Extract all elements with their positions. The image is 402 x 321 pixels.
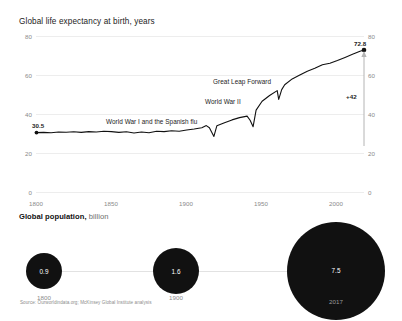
population-bubble-value-2017: 7.5: [287, 267, 385, 274]
delta-arrow-head: [361, 51, 366, 57]
end-value-annotation: 72.8: [354, 40, 366, 47]
population-section-title: Global population, billion: [19, 212, 109, 221]
infographic-figure: Global life expectancy at birth, years 8…: [0, 0, 402, 321]
population-bubble-year-1900: 1900: [153, 294, 199, 301]
start-point-marker: [35, 131, 39, 135]
delta-annotation: +42: [346, 93, 357, 100]
bubble-connector-1900-2017: [190, 271, 300, 272]
population-bubble-value-1900: 1.6: [153, 268, 199, 275]
population-bubble-year-2017: 2017: [287, 298, 385, 305]
start-value-annotation: 30.5: [32, 122, 44, 129]
population-bubble-value-1800: 0.9: [26, 268, 62, 275]
annotation-world-war-ii: World War II: [205, 98, 241, 105]
annotation-great-leap-forward: Great Leap Forward: [213, 78, 271, 85]
population-title-strong: Global population,: [19, 212, 87, 221]
life-expectancy-line: [36, 50, 364, 136]
population-title-light: billion: [89, 212, 109, 221]
annotation-world-war-i: World War I and the Spanish flu: [106, 118, 197, 125]
source-note: Source: Ourworldindata.org; McKinsey Glo…: [20, 300, 152, 305]
